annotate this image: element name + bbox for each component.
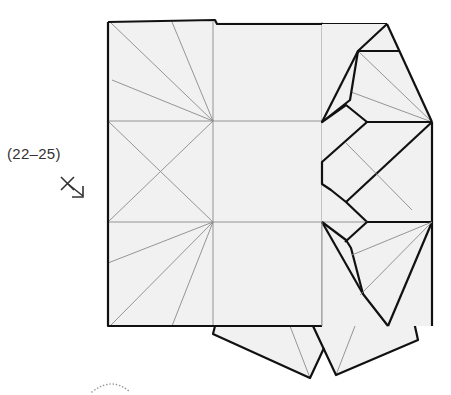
origami-diagram — [0, 0, 451, 395]
dotted-arc — [92, 384, 130, 392]
right-flaps — [322, 24, 432, 326]
fold-arrow-icon — [61, 177, 83, 197]
